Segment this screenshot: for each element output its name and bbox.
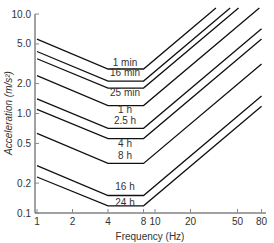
y-tick-label: 0.2 — [17, 178, 31, 189]
duration-label: 2.5 h — [114, 115, 136, 126]
duration-label: 4 h — [118, 138, 132, 149]
x-tick-label: 1 — [34, 216, 40, 227]
duration-label: 16 h — [115, 181, 134, 192]
y-tick-label: 2.0 — [17, 78, 31, 89]
y-axis-label: Acceleration (m/s²) — [3, 71, 14, 156]
series-line — [37, 29, 262, 128]
duration-label: 24 h — [115, 197, 134, 208]
x-tick-label: 20 — [185, 216, 197, 227]
x-tick-label: 10 — [149, 216, 161, 227]
duration-label: 1 h — [118, 104, 132, 115]
series-line — [37, 8, 259, 106]
duration-label: 25 min — [110, 87, 140, 98]
x-tick-label: 80 — [256, 216, 268, 227]
y-tick-label: 0.1 — [17, 208, 31, 219]
x-tick-label: 4 — [105, 216, 111, 227]
duration-label: 16 min — [110, 67, 140, 78]
y-tick-label: 1.0 — [17, 108, 31, 119]
x-tick-label: 8 — [141, 216, 147, 227]
series-line — [37, 64, 262, 164]
chart: 0.10.20.51.02.05.010.0124810205080Freque… — [0, 0, 274, 243]
y-tick-label: 0.5 — [17, 138, 31, 149]
series-line — [37, 96, 262, 195]
plot-area: 0.10.20.51.02.05.010.0124810205080Freque… — [0, 0, 274, 243]
x-tick-label: 2 — [70, 216, 76, 227]
x-tick-label: 50 — [232, 216, 244, 227]
duration-label: 8 h — [118, 150, 132, 161]
x-axis-label: Frequency (Hz) — [116, 231, 185, 242]
y-tick-label: 10.0 — [12, 9, 32, 20]
y-tick-label: 5.0 — [17, 38, 31, 49]
